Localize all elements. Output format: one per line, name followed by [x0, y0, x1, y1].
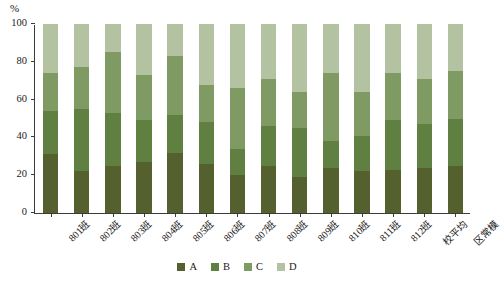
bar-segment-d — [230, 24, 246, 88]
x-axis-label: 812班 — [406, 216, 434, 244]
bar-segment-b — [136, 120, 152, 162]
bar-segment-c — [43, 73, 59, 111]
bar-segment-c — [261, 79, 277, 126]
bar-segment-a — [354, 171, 370, 213]
x-axis-label: 811班 — [375, 216, 403, 244]
legend-label: A — [189, 262, 197, 273]
bar-stack — [167, 24, 183, 213]
x-axis-label: 808班 — [282, 216, 310, 244]
legend-item[interactable]: B — [211, 262, 230, 273]
bar-stack — [136, 24, 152, 213]
legend-swatch-icon — [177, 263, 185, 271]
bar-segment-a — [136, 162, 152, 213]
chart-legend: ABCD — [0, 262, 474, 273]
bar-segment-d — [167, 24, 183, 56]
y-axis-tick-label: 100 — [11, 17, 27, 28]
bar-segment-b — [417, 124, 433, 167]
bar-segment-c — [199, 85, 215, 123]
bar-stack — [417, 24, 433, 213]
bar-segment-b — [74, 109, 90, 171]
bar-segment-b — [323, 141, 339, 167]
legend-item[interactable]: A — [177, 262, 197, 273]
bar-stack — [199, 24, 215, 213]
bar-segment-a — [105, 166, 121, 213]
plot-area: 020406080100 — [34, 25, 470, 214]
bar-segment-d — [417, 24, 433, 79]
x-axis-label: 806班 — [220, 216, 248, 244]
bar-stack — [323, 24, 339, 213]
bar-segment-c — [74, 67, 90, 109]
bar-segment-d — [199, 24, 215, 84]
legend-item[interactable]: D — [277, 262, 297, 273]
legend-swatch-icon — [211, 263, 219, 271]
bar-stack — [230, 24, 246, 213]
bar-segment-c — [385, 73, 401, 120]
bar-segment-c — [323, 73, 339, 141]
bar-segment-d — [323, 24, 339, 73]
bar-segment-b — [292, 128, 308, 177]
x-axis-label: 807班 — [251, 216, 279, 244]
bar-stack — [43, 24, 59, 213]
legend-item[interactable]: C — [244, 262, 263, 273]
bar-segment-a — [230, 175, 246, 213]
legend-swatch-icon — [244, 263, 252, 271]
x-axis-label: 803班 — [126, 216, 154, 244]
bar-segment-c — [136, 75, 152, 120]
bar-stack — [385, 24, 401, 213]
bar-segment-c — [292, 92, 308, 128]
bar-segment-b — [354, 136, 370, 172]
bar-segment-a — [43, 154, 59, 213]
bar-segment-b — [448, 119, 464, 166]
x-axis-label: 804班 — [157, 216, 185, 244]
legend-swatch-icon — [277, 263, 285, 271]
bar-segment-a — [448, 166, 464, 213]
x-axis-labels: 801班802班803班804班805班806班807班808班809班810班… — [34, 216, 470, 260]
y-axis-tick-label: 0 — [22, 206, 27, 217]
bar-segment-d — [136, 24, 152, 75]
bar-segment-b — [105, 113, 121, 166]
bar-segment-b — [199, 122, 215, 164]
bar-segment-a — [74, 171, 90, 213]
bar-segment-c — [417, 79, 433, 124]
y-axis-tick-label: 60 — [17, 93, 28, 104]
bar-stack — [105, 24, 121, 213]
bar-segment-a — [292, 177, 308, 213]
x-axis-label: 区常模 — [470, 216, 502, 248]
bar-segment-c — [167, 56, 183, 115]
bar-segment-d — [448, 24, 464, 71]
bar-segment-a — [261, 166, 277, 213]
bar-stack — [354, 24, 370, 213]
bar-segment-a — [385, 170, 401, 213]
y-axis-tick: 100 — [31, 23, 35, 24]
bar-segment-a — [323, 168, 339, 213]
bar-segment-d — [74, 24, 90, 67]
x-axis-label: 802班 — [95, 216, 123, 244]
legend-label: B — [223, 262, 230, 273]
y-axis-tick-label: 80 — [17, 55, 28, 66]
x-axis-label: 805班 — [188, 216, 216, 244]
bar-segment-c — [230, 88, 246, 148]
bar-segment-a — [417, 168, 433, 213]
bar-segment-a — [167, 153, 183, 213]
bar-segment-c — [448, 71, 464, 118]
y-axis-tick-label: 20 — [17, 168, 28, 179]
legend-label: D — [289, 262, 297, 273]
bar-segment-b — [43, 111, 59, 154]
bar-segment-d — [385, 24, 401, 73]
bar-segment-b — [261, 126, 277, 166]
bar-segment-d — [261, 24, 277, 79]
bar-segment-c — [354, 92, 370, 135]
bar-stack — [261, 24, 277, 213]
bars-layer — [35, 25, 470, 213]
bar-segment-d — [292, 24, 308, 92]
bar-stack — [292, 24, 308, 213]
bar-segment-d — [43, 24, 59, 73]
bar-segment-b — [167, 115, 183, 153]
x-axis-label: 801班 — [64, 216, 92, 244]
x-axis-label: 校平均 — [439, 216, 471, 248]
bar-segment-c — [105, 52, 121, 112]
y-axis-tick-label: 40 — [17, 130, 28, 141]
x-axis-label: 810班 — [344, 216, 372, 244]
legend-label: C — [256, 262, 263, 273]
